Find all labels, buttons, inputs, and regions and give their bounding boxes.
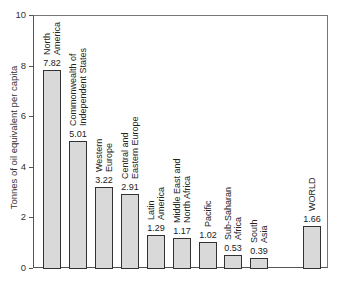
y-tick (29, 217, 33, 218)
y-tick (29, 15, 33, 16)
category-label-line: Latin (146, 187, 156, 220)
y-tick-label: 8 (12, 60, 26, 71)
category-label-line: North (42, 22, 52, 55)
category-label-line: Central and (120, 117, 130, 180)
category-label-line: Asia (259, 220, 269, 244)
category-label-line: South (249, 220, 259, 244)
y-axis-label: Tonnes of oil equivalent per capita (8, 63, 19, 213)
bar-value-label: 0.39 (242, 246, 276, 256)
category-label: Pacific (203, 201, 213, 228)
y-tick-label: 2 (12, 211, 26, 222)
category-label-line: Western (94, 138, 104, 171)
category-label: LatinAmerica (146, 187, 166, 220)
y-tick (29, 116, 33, 117)
bar (69, 141, 87, 269)
category-label: Commonwealth ofIndependent States (68, 48, 88, 126)
bar-value-label: 5.01 (61, 129, 95, 139)
y-tick-label: 6 (12, 110, 26, 121)
category-label: Central andEastern Europe (120, 117, 140, 180)
bar (173, 238, 191, 269)
y-tick-label: 4 (12, 161, 26, 172)
category-label: Middle East andNorth Africa (172, 159, 192, 224)
category-label-line: Middle East and (172, 159, 182, 224)
category-label: NorthAmerica (42, 22, 62, 55)
category-label-line: Independent States (78, 48, 88, 126)
category-label-line: WORLD (307, 178, 317, 212)
category-label-line: Eastern Europe (130, 117, 140, 180)
category-label-line: America (156, 187, 166, 220)
y-tick (29, 66, 33, 67)
bar (121, 194, 139, 269)
category-label: SouthAsia (249, 220, 269, 244)
bar (303, 226, 321, 269)
energy-per-capita-bar-chart: Tonnes of oil equivalent per capita 0246… (0, 0, 339, 284)
y-tick (29, 268, 33, 269)
category-label-line: Europe (104, 138, 114, 171)
category-label-line: North Africa (182, 159, 192, 224)
bar (43, 70, 61, 269)
y-tick (29, 167, 33, 168)
category-label-line: America (52, 22, 62, 55)
bar (224, 255, 242, 269)
category-label-line: Sub-Saharan (223, 187, 233, 240)
y-tick-label: 0 (12, 262, 26, 273)
bar (147, 235, 165, 269)
y-tick-label: 10 (12, 9, 26, 20)
category-label-line: Pacific (203, 201, 213, 228)
category-label: WesternEurope (94, 138, 114, 171)
category-label-line: Africa (233, 187, 243, 240)
bar-value-label: 1.02 (191, 230, 225, 240)
bar-value-label: 7.82 (35, 58, 69, 68)
bar (199, 242, 217, 269)
category-label: Sub-SaharanAfrica (223, 187, 243, 240)
category-label-line: Commonwealth of (68, 48, 78, 126)
category-label: WORLD (307, 178, 317, 212)
bar (250, 258, 268, 269)
bar-value-label: 2.91 (113, 182, 147, 192)
bar (95, 187, 113, 269)
bar-value-label: 1.66 (295, 214, 329, 224)
